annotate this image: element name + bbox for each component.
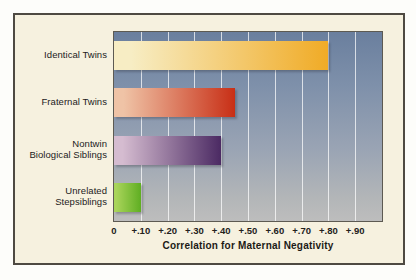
bar-row [114,183,382,212]
bar-row [114,136,382,165]
category-label-line: Nontwin [15,138,107,150]
category-label: NontwinBiological Siblings [15,138,107,161]
nontwin-biological-siblings-bar [114,136,221,165]
chart-panel: Correlation for Maternal Negativity Iden… [13,13,405,265]
unrelated-stepsiblings-bar [114,183,141,212]
category-label: Identical Twins [15,49,107,61]
x-axis-title: Correlation for Maternal Negativity [113,240,383,251]
bar-row [114,88,382,117]
fraternal-twins-bar [114,88,235,117]
identical-twins-bar [114,41,328,70]
x-tick-label: +.90 [335,225,375,236]
category-label-line: Identical Twins [15,49,107,61]
category-label-line: Fraternal Twins [15,96,107,108]
category-label-line: Stepsiblings [15,196,107,208]
category-label: Fraternal Twins [15,96,107,108]
category-label-line: Biological Siblings [15,149,107,161]
figure-root: Correlation for Maternal Negativity Iden… [0,0,416,280]
plot-area [113,31,383,222]
category-label: UnrelatedStepsiblings [15,185,107,208]
bar-row [114,41,382,70]
category-label-line: Unrelated [15,185,107,197]
